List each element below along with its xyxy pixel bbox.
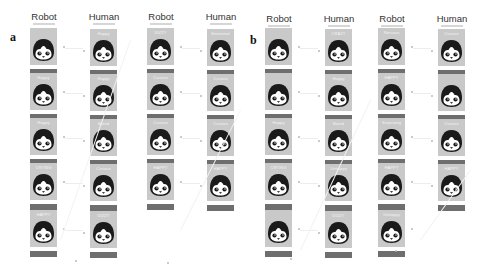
emotion-card-panel: Happy: [265, 118, 292, 155]
emotion-card-bar: [147, 204, 174, 210]
emotion-card-panel: Bored: [325, 119, 352, 156]
connector-dot: [411, 228, 413, 230]
penguin-face-icon: [32, 83, 55, 107]
connector-line: [65, 93, 83, 94]
emotion-card-panel: DIZZY: [147, 28, 174, 65]
column-header-text: Robot: [379, 13, 404, 24]
emotion-label: Happy: [30, 120, 57, 125]
emotion-card-panel: Curious: [207, 74, 234, 111]
column-header-text: Human: [324, 13, 355, 24]
emotion-label: CRYING: [30, 165, 57, 170]
connector-line: [300, 183, 318, 184]
penguin-face-icon: [440, 129, 463, 153]
penguin-face-icon: [327, 39, 350, 63]
penguin-face: [32, 83, 55, 107]
penguin-face: [32, 173, 55, 197]
penguin-face: [440, 129, 463, 153]
column-header-human: Human: [196, 11, 246, 25]
emotion-card-panel: [265, 210, 292, 247]
penguin-face-icon: [209, 84, 232, 108]
emotion-card-panel: CRAZY: [325, 29, 352, 66]
emotion-label: Bored: [90, 121, 117, 126]
penguin-face-icon: [209, 174, 232, 198]
emotion-card-panel: Happy: [325, 74, 352, 111]
penguin-face-icon: [380, 220, 403, 244]
emotion-label: Curious: [147, 75, 174, 80]
human-emotion-card: Curious: [438, 29, 465, 79]
emotion-card-panel: HAPPY: [378, 163, 405, 200]
connector-dot: [83, 50, 85, 52]
connector-dot: [431, 50, 433, 52]
penguin-face-icon: [380, 38, 403, 62]
penguin-face: [149, 38, 172, 62]
emotion-card-panel: [265, 28, 292, 65]
penguin-face: [32, 38, 55, 62]
human-emotion-card: HAPPY: [438, 164, 465, 214]
emotion-card-panel: Curious: [147, 73, 174, 110]
panel-label: b: [250, 33, 257, 48]
connector-dot: [318, 140, 320, 142]
emotion-label: DIZZY: [147, 30, 174, 35]
emotion-label: HAPPY: [30, 212, 57, 217]
penguin-face-icon: [149, 38, 172, 62]
connector-dot: [83, 95, 85, 97]
column-header-human: Human: [427, 13, 477, 27]
connector-dot: [431, 95, 433, 97]
robot-emotion-card: Curious: [147, 118, 174, 168]
emotion-card-panel: Happy: [90, 74, 117, 111]
human-emotion-card: DIZZY: [90, 211, 117, 261]
emotion-label: Unhappy: [378, 212, 405, 217]
emotion-card-bar: [378, 251, 405, 257]
penguin-face-icon: [380, 173, 403, 197]
connector-dot: [290, 258, 292, 260]
connector-line: [182, 48, 200, 49]
penguin-face-icon: [92, 221, 115, 245]
penguin-face-icon: [267, 128, 290, 152]
emotion-label: DIZZY: [90, 213, 117, 218]
connector-line: [300, 93, 318, 94]
robot-emotion-card: Happy: [30, 118, 57, 168]
emotion-card-panel: Nervous: [378, 28, 405, 65]
emotion-card-panel: Curious: [438, 29, 465, 66]
emotion-label: Curious: [207, 121, 234, 126]
emotion-card-panel: CRYING: [30, 163, 57, 200]
penguin-face-icon: [267, 83, 290, 107]
penguin-face: [327, 39, 350, 63]
penguin-face: [440, 84, 463, 108]
penguin-face-icon: [327, 84, 350, 108]
header-underline: [328, 25, 350, 27]
penguin-face: [92, 221, 115, 245]
header-underline: [150, 23, 172, 25]
emotion-label: Happy: [90, 76, 117, 81]
emotion-card-panel: CRYING: [265, 163, 292, 200]
emotion-label: Surprising: [378, 120, 405, 125]
emotion-card-bar: [325, 252, 352, 258]
emotion-label: Happy: [30, 75, 57, 80]
emotion-label: Happy: [90, 31, 117, 36]
human-emotion-card: Curious: [207, 119, 234, 169]
emotion-label: CRAZY: [325, 31, 352, 36]
column-header-text: Robot: [31, 11, 56, 22]
penguin-face-icon: [149, 128, 172, 152]
panel-label: a: [10, 30, 16, 45]
penguin-face: [327, 84, 350, 108]
robot-emotion-card: Nervous: [378, 28, 405, 78]
emotion-card-panel: Curious: [438, 119, 465, 156]
robot-emotion-card: CRYING: [30, 163, 57, 213]
penguin-face: [440, 39, 463, 63]
penguin-face: [92, 174, 115, 198]
connector-dot: [83, 232, 85, 234]
penguin-face-icon: [149, 83, 172, 107]
penguin-face: [209, 84, 232, 108]
penguin-face-icon: [32, 220, 55, 244]
robot-emotion-card: HAPPY: [378, 73, 405, 123]
penguin-face: [267, 38, 290, 62]
emotion-label: Bored: [325, 121, 352, 126]
header-underline: [93, 23, 115, 25]
connector-dot: [75, 260, 77, 262]
penguin-face-icon: [149, 173, 172, 197]
robot-emotion-card: DIZZY: [147, 28, 174, 78]
penguin-face: [380, 83, 403, 107]
emotion-card-panel: Happy: [30, 118, 57, 155]
robot-emotion-card: [30, 28, 57, 78]
